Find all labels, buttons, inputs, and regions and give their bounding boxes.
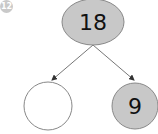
whole-value: 18 — [79, 10, 107, 35]
part-right-value: 9 — [128, 94, 142, 119]
part-node-right: 9 — [112, 83, 158, 129]
number-bond-diagram: 18 9 — [0, 0, 158, 134]
whole-node: 18 — [62, 0, 124, 45]
part-node-left[interactable] — [24, 82, 72, 130]
connector-right — [93, 45, 134, 80]
connector-left — [52, 45, 93, 80]
